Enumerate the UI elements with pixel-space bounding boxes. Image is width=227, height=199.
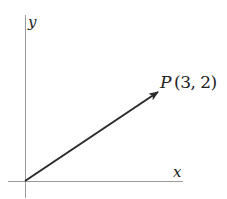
point-coords: (3, 2) bbox=[174, 72, 217, 92]
vector-arrow bbox=[25, 92, 158, 181]
point-name: P bbox=[159, 72, 172, 92]
vector-diagram: y x P (3, 2) bbox=[0, 0, 227, 199]
y-axis-label: y bbox=[27, 13, 37, 31]
x-axis-label: x bbox=[173, 163, 182, 181]
